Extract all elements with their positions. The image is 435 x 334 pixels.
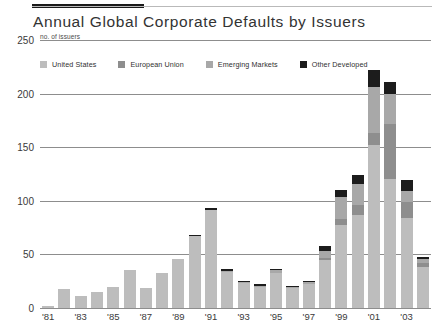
x-axis-tick-label: '81 bbox=[42, 311, 54, 322]
x-axis-tick-label: '85 bbox=[107, 311, 119, 322]
legend-item: Emerging Markets bbox=[206, 60, 278, 69]
legend-label: United States bbox=[52, 60, 96, 69]
bar-segment bbox=[352, 205, 364, 215]
bar-column bbox=[303, 281, 315, 308]
bar-column bbox=[417, 257, 429, 308]
legend-swatch-icon bbox=[40, 61, 47, 68]
bar-segment bbox=[335, 197, 347, 220]
bar-segment bbox=[401, 218, 413, 308]
bar-column bbox=[91, 292, 103, 308]
bar-segment bbox=[286, 288, 298, 308]
bar-column bbox=[319, 246, 331, 308]
bar-segment bbox=[205, 210, 217, 308]
bar-segment bbox=[368, 70, 380, 87]
bar-column bbox=[384, 82, 396, 308]
bar-column bbox=[254, 284, 266, 308]
bar-segment bbox=[384, 82, 396, 94]
x-axis-tick-label: '03 bbox=[400, 311, 412, 322]
legend-label: Other Developed bbox=[312, 60, 368, 69]
x-axis-tick-label: '99 bbox=[335, 311, 347, 322]
bar-segment bbox=[221, 272, 233, 308]
bar-segment bbox=[401, 202, 413, 218]
y-axis-tick-label: 0 bbox=[28, 303, 34, 314]
bar-column bbox=[107, 287, 119, 308]
bar-segment bbox=[140, 288, 152, 308]
bar-segment bbox=[352, 175, 364, 184]
bar-segment bbox=[189, 236, 201, 308]
bar-segment bbox=[368, 87, 380, 133]
bar-segment bbox=[42, 306, 54, 308]
bar-column bbox=[286, 286, 298, 308]
bar-column bbox=[221, 269, 233, 308]
legend-swatch-icon bbox=[206, 61, 213, 68]
x-axis-tick-label: '01 bbox=[368, 311, 380, 322]
bar-column bbox=[401, 180, 413, 308]
bar-column bbox=[140, 288, 152, 308]
bar-segment bbox=[384, 124, 396, 180]
bar-column bbox=[270, 269, 282, 308]
bar-segment bbox=[172, 259, 184, 308]
y-axis-tick-label: 250 bbox=[17, 35, 34, 46]
bar-segment bbox=[91, 292, 103, 308]
y-axis-tick-label: 50 bbox=[23, 249, 34, 260]
bar-column bbox=[124, 270, 136, 308]
legend-swatch-icon bbox=[300, 61, 307, 68]
bar-column bbox=[368, 70, 380, 308]
chart-root: Annual Global Corporate Defaults by Issu… bbox=[0, 0, 435, 334]
bar-column bbox=[335, 190, 347, 308]
bar-column bbox=[172, 259, 184, 308]
y-axis-tick-label: 100 bbox=[17, 195, 34, 206]
bar-segment bbox=[335, 225, 347, 308]
legend-label: Emerging Markets bbox=[218, 60, 278, 69]
bar-segment bbox=[254, 287, 266, 308]
plot-area bbox=[40, 40, 431, 308]
bar-column bbox=[58, 289, 70, 308]
gridline bbox=[40, 308, 431, 309]
bar-series-container bbox=[40, 40, 431, 308]
x-axis-tick-label: '83 bbox=[75, 311, 87, 322]
bar-segment bbox=[270, 273, 282, 308]
bar-segment bbox=[368, 145, 380, 308]
bar-segment bbox=[401, 191, 413, 202]
x-axis-tick-label: '95 bbox=[270, 311, 282, 322]
bar-segment bbox=[238, 283, 250, 308]
bar-segment bbox=[303, 284, 315, 308]
x-axis-labels: '81'83'85'87'89'91'93'95'97'99'01'03 bbox=[40, 311, 431, 327]
x-axis-tick-label: '97 bbox=[303, 311, 315, 322]
bar-segment bbox=[417, 267, 429, 308]
legend-item: European Union bbox=[118, 60, 183, 69]
x-axis-tick-label: '91 bbox=[205, 311, 217, 322]
bar-segment bbox=[384, 179, 396, 308]
x-axis-tick-label: '93 bbox=[237, 311, 249, 322]
bar-segment bbox=[401, 180, 413, 191]
bar-segment bbox=[156, 273, 168, 308]
bar-segment bbox=[384, 94, 396, 124]
bar-segment bbox=[352, 215, 364, 308]
bar-segment bbox=[124, 270, 136, 308]
legend-item: Other Developed bbox=[300, 60, 368, 69]
bar-column bbox=[156, 273, 168, 308]
legend-label: European Union bbox=[130, 60, 183, 69]
legend-swatch-icon bbox=[118, 61, 125, 68]
y-axis-labels: 050100150200250 bbox=[0, 40, 34, 308]
page-title: Annual Global Corporate Defaults by Issu… bbox=[33, 13, 366, 31]
bar-column bbox=[205, 208, 217, 308]
x-axis-tick-label: '87 bbox=[140, 311, 152, 322]
bar-segment bbox=[75, 296, 87, 308]
header-rule bbox=[32, 6, 432, 7]
legend-item: United States bbox=[40, 60, 96, 69]
bar-segment bbox=[58, 289, 70, 308]
bar-segment bbox=[319, 260, 331, 308]
bar-column bbox=[189, 235, 201, 308]
y-axis-tick-label: 200 bbox=[17, 88, 34, 99]
bar-segment bbox=[352, 184, 364, 205]
x-axis-tick-label: '89 bbox=[172, 311, 184, 322]
y-axis-tick-label: 150 bbox=[17, 142, 34, 153]
bar-segment bbox=[368, 133, 380, 145]
bar-column bbox=[75, 296, 87, 308]
bar-segment bbox=[107, 287, 119, 308]
bar-column bbox=[352, 175, 364, 308]
bar-column bbox=[42, 306, 54, 308]
chart-legend: United StatesEuropean UnionEmerging Mark… bbox=[40, 60, 390, 69]
bar-column bbox=[238, 281, 250, 308]
